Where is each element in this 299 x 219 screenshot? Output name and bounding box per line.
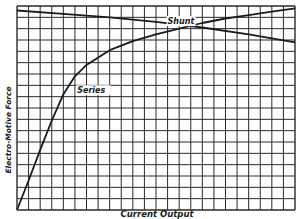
x-axis-label: Current Output [120, 209, 194, 219]
chart-labels: ShuntSeries [76, 16, 195, 95]
series-label-shunt: Shunt [168, 17, 196, 26]
y-axis-label: Electro-Motive Force [4, 86, 13, 173]
chart-svg: ShuntSeries Current Output Electro-Motiv… [0, 0, 299, 219]
chart: ShuntSeries Current Output Electro-Motiv… [0, 0, 299, 219]
series-label-series: Series [77, 86, 105, 95]
chart-grid [17, 6, 295, 210]
